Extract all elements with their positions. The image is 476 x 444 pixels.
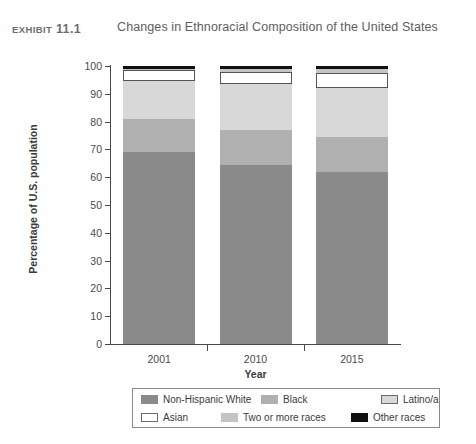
bar-segment-latino-a: [220, 84, 292, 130]
bar-segment-asian: [316, 73, 388, 88]
y-axis-tick: [105, 344, 111, 345]
y-axis-tick-label: 10: [58, 311, 102, 321]
y-axis-tick-label-text: 10: [62, 311, 102, 321]
legend-item-other-races: Other races: [351, 408, 425, 426]
bar-2001: [123, 66, 195, 344]
y-axis-tick-label: 50: [58, 200, 102, 210]
x-axis-line: [110, 344, 401, 345]
x-axis-tick-label: 2010: [216, 353, 296, 365]
bar-segment-non-hispanic-white: [220, 165, 292, 344]
x-axis-tick: [304, 345, 305, 351]
y-axis-tick-label: 20: [58, 283, 102, 293]
bar-segment-asian: [220, 72, 292, 85]
y-axis-tick-label-text: 100: [62, 61, 102, 71]
y-axis-tick-label-text: 0: [62, 339, 102, 349]
x-axis-tick-label: 2015: [312, 353, 392, 365]
legend-label: Two or more races: [243, 412, 326, 423]
legend-label: Black: [283, 394, 307, 405]
x-axis-title: Year: [111, 368, 400, 380]
legend-row-1: Non-Hispanic WhiteBlackLatino/a: [133, 390, 439, 408]
bar-segment-two-or-more-races: [220, 69, 292, 71]
bar-segment-black: [123, 119, 195, 152]
legend-label: Asian: [163, 412, 188, 423]
y-axis-tick-label-text: 20: [62, 283, 102, 293]
bar-segment-latino-a: [316, 88, 388, 137]
legend-swatch-icon: [261, 395, 278, 404]
legend-label: Latino/a: [403, 394, 439, 405]
legend-item-latino-a: Latino/a: [381, 390, 439, 408]
legend-label: Non-Hispanic White: [163, 394, 251, 405]
legend-row-2: AsianTwo or more racesOther races: [133, 408, 439, 426]
bar-segment-latino-a: [123, 81, 195, 119]
x-axis-tick: [207, 345, 208, 351]
y-axis-tick-label-text: 70: [62, 144, 102, 154]
legend-item-two-or-more-races: Two or more races: [221, 408, 326, 426]
bar-segment-asian: [123, 70, 195, 81]
plot-area: [111, 66, 400, 344]
bar-segment-black: [316, 137, 388, 172]
y-axis-title: Percentage of U.S. population: [27, 109, 39, 289]
legend-swatch-icon: [141, 395, 158, 404]
y-axis-tick-label: 100: [58, 61, 102, 71]
legend-item-non-hispanic-white: Non-Hispanic White: [141, 390, 251, 408]
y-axis-tick-label-text: 60: [62, 172, 102, 182]
legend-swatch-icon: [141, 413, 158, 422]
bar-segment-other-races: [220, 66, 292, 69]
y-axis-tick-label: 90: [58, 89, 102, 99]
y-axis-tick-label-text: 50: [62, 200, 102, 210]
y-axis-tick-label-text: 40: [62, 228, 102, 238]
y-axis-tick-label-text: 90: [62, 89, 102, 99]
bar-2010: [220, 66, 292, 344]
y-axis-tick-label: 80: [58, 117, 102, 127]
legend-swatch-icon: [381, 395, 398, 404]
bar-segment-black: [220, 130, 292, 165]
y-axis-tick-label: 0: [58, 339, 102, 349]
x-axis-tick-label: 2001: [119, 353, 199, 365]
chart-legend: Non-Hispanic WhiteBlackLatino/a AsianTwo…: [132, 388, 440, 428]
legend-swatch-icon: [351, 413, 368, 422]
y-axis-tick-label-text: 80: [62, 117, 102, 127]
y-axis-tick-label: 70: [58, 144, 102, 154]
legend-item-asian: Asian: [141, 408, 188, 426]
bar-segment-two-or-more-races: [316, 69, 388, 73]
bar-segment-other-races: [123, 66, 195, 69]
y-axis-tick-label: 60: [58, 172, 102, 182]
y-axis-tick-label: 40: [58, 228, 102, 238]
bar-segment-non-hispanic-white: [123, 152, 195, 344]
bar-segment-other-races: [316, 66, 388, 69]
y-axis-tick-label: 30: [58, 256, 102, 266]
bar-segment-non-hispanic-white: [316, 172, 388, 344]
legend-item-black: Black: [261, 390, 307, 408]
legend-label: Other races: [373, 412, 425, 423]
legend-swatch-icon: [221, 413, 238, 422]
chart-figure: Percentage of U.S. population Year 01020…: [0, 0, 476, 444]
y-axis-tick-label-text: 30: [62, 256, 102, 266]
bar-2015: [316, 66, 388, 344]
bar-segment-two-or-more-races: [123, 69, 195, 70]
